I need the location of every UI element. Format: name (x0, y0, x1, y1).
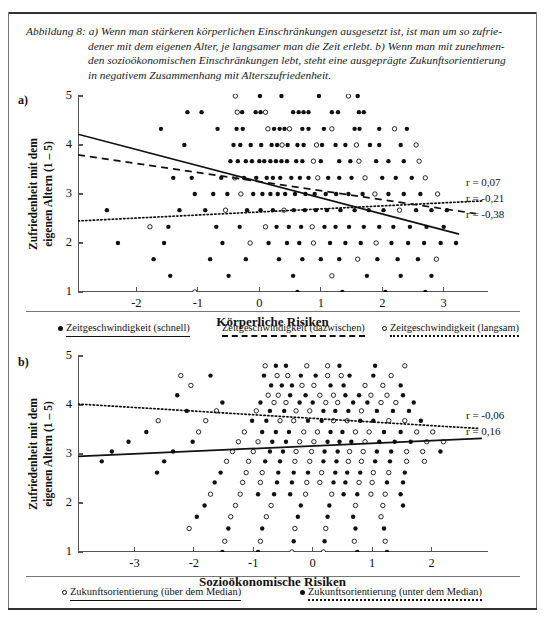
x-tick-mark (134, 547, 135, 552)
legend-label: Zukunftsorientierung (unter dem Median) (308, 586, 482, 600)
r-value-label: r = -0,06 (466, 409, 504, 421)
legend-label: Zukunftsorientierung (über dem Median) (70, 586, 241, 600)
x-tick-label: 1 (359, 556, 385, 571)
figure-container: Abbildung 8: a) Wenn man stärkeren körpe… (0, 0, 545, 625)
x-tick-label: -3 (121, 556, 147, 571)
filled-dot-marker (300, 590, 305, 595)
legend-rule-solid (70, 600, 241, 601)
x-tick-mark (431, 547, 432, 552)
chart-panel-b: 12345-3-2-1012Zufriedenheit mit demeigen… (0, 0, 545, 625)
y-tick-mark (78, 453, 83, 454)
x-tick-label: -2 (181, 556, 207, 571)
y-axis-label-line: Zufriedenheit mit dem (26, 356, 41, 552)
y-axis-label-b: Zufriedenheit mit demeigenen Altern (1 –… (26, 356, 56, 552)
x-tick-label: -1 (240, 556, 266, 571)
open-circle-marker (62, 590, 67, 595)
x-tick-mark (193, 547, 194, 552)
x-tick-mark (312, 547, 313, 552)
x-tick-mark (253, 547, 254, 552)
x-tick-label: 2 (419, 556, 445, 571)
legend-rule-dotted (308, 599, 482, 601)
y-axis-label-line: eigenen Altern (1 – 5) (41, 356, 56, 552)
y-tick-mark (78, 355, 83, 356)
y-tick-mark (78, 551, 83, 552)
legend-item[interactable]: Zukunftsorientierung (über dem Median) (62, 586, 241, 600)
y-tick-mark (78, 502, 83, 503)
legend-item[interactable]: Zukunftsorientierung (unter dem Median) (300, 586, 482, 600)
x-tick-label: 0 (300, 556, 326, 571)
plot-area-b (78, 356, 488, 552)
r-value-label: r = 0,16 (466, 425, 501, 437)
legend-separator-a (26, 311, 520, 312)
legend-separator-b (26, 576, 520, 577)
y-tick-mark (78, 404, 83, 405)
x-tick-mark (372, 547, 373, 552)
